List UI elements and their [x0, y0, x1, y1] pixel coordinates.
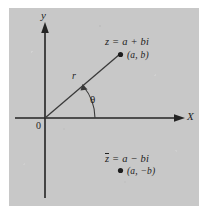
- z-expression: z = a + bi: [105, 37, 149, 48]
- origin-label: 0: [36, 121, 41, 131]
- x-axis-arrowhead-icon: [174, 114, 185, 122]
- figure-canvas: y X 0 r θ z = a + bi (a, b) z = a − bi (…: [0, 0, 209, 216]
- x-axis-label: X: [187, 111, 194, 122]
- point-marker-z: [118, 52, 123, 57]
- z-coordinates: (a, b): [127, 51, 149, 61]
- diagram-vectors: [9, 8, 199, 206]
- z-conjugate-expression-rest: = a − bi: [109, 153, 149, 164]
- point-marker-z-conjugate: [118, 168, 123, 173]
- z-conjugate-coordinates: (a, −b): [127, 167, 155, 177]
- y-axis-label: y: [41, 10, 46, 21]
- angle-label: θ: [90, 94, 95, 105]
- y-axis-arrowhead-icon: [41, 22, 49, 33]
- argand-plot-area: y X 0 r θ z = a + bi (a, b) z = a − bi (…: [9, 8, 199, 206]
- z-expression-rest: = a + bi: [109, 36, 149, 47]
- z-conjugate-expression: z = a − bi: [105, 153, 149, 165]
- radius-label: r: [72, 71, 76, 81]
